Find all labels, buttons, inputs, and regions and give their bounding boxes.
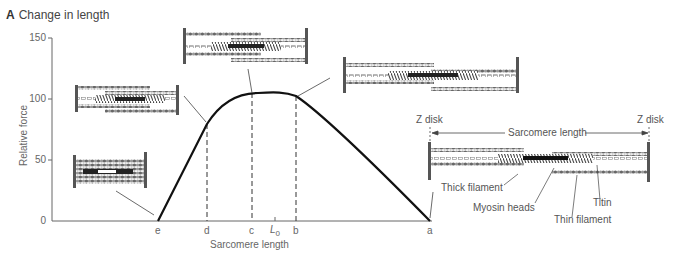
- sarcomere-d: [75, 85, 179, 115]
- myosin-heads-label: Myosin heads: [473, 202, 535, 213]
- length-tension-curve: [158, 92, 430, 221]
- thin-filament-label: Thin filament: [554, 214, 611, 225]
- thick-filament-label: Thick filament: [441, 182, 503, 193]
- z-disk-right-label: Z disk: [637, 114, 664, 125]
- y-axis: [48, 38, 52, 221]
- x-axis: [52, 217, 432, 221]
- sarcomere-a: [428, 142, 650, 182]
- z-disk-left-label: Z disk: [416, 114, 443, 125]
- sarcomere-e: [73, 152, 147, 188]
- titin-label: Titin: [593, 197, 612, 208]
- sarcomere-length-label: Sarcomere length: [508, 127, 587, 138]
- sarcomere-c: [183, 28, 308, 64]
- sarcomere-b: [343, 57, 519, 93]
- dashed-guides: [207, 93, 296, 221]
